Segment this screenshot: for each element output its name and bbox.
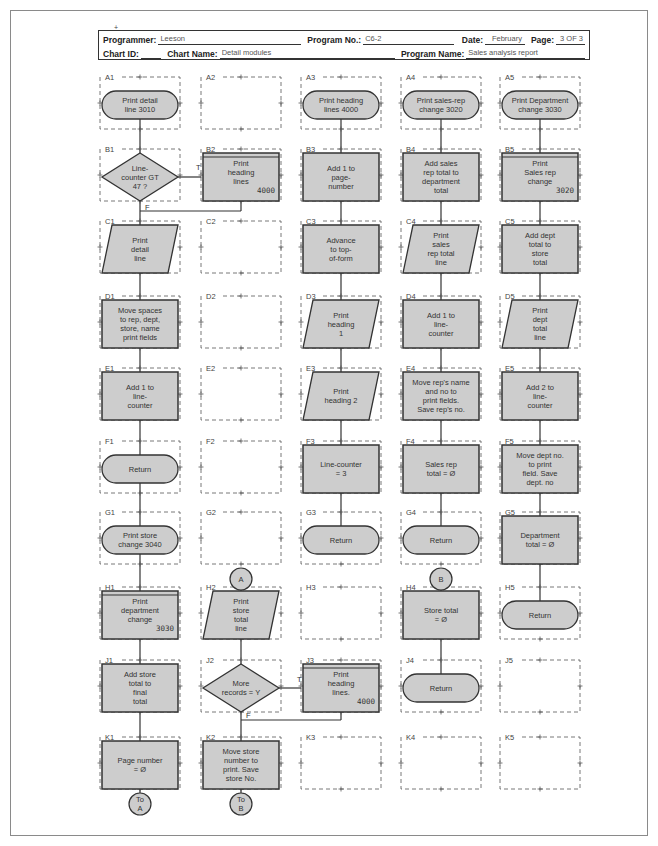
io-symbol: Printheading 2 xyxy=(303,372,379,420)
cell-c2: C2 xyxy=(199,217,284,276)
symbol-text: Print xyxy=(333,670,349,679)
cell-b2: B2Printheadinglines4000 xyxy=(199,145,284,204)
cell-c5: C5Add depttotal tostoretotal xyxy=(498,217,583,276)
cell-j5: J5 xyxy=(498,656,583,715)
symbol-text: More xyxy=(232,679,249,688)
process-symbol: Advanceto top-of-form xyxy=(303,225,379,273)
cell-k5: K5 xyxy=(498,733,583,792)
symbol-text: counter GT xyxy=(121,173,159,182)
symbol-text: store, name xyxy=(120,324,160,333)
module-number: 4000 xyxy=(357,697,376,706)
cell-g5: G5Departmenttotal = Ø xyxy=(498,508,583,567)
symbol-text: Add 1 to xyxy=(427,311,455,320)
process-symbol: Move spacesto rep, dept,store, nameprint… xyxy=(102,300,178,348)
io-symbol: Printdepttotalline xyxy=(502,300,578,348)
symbol-text: rep total to xyxy=(423,168,458,177)
symbol-text: = Ø xyxy=(435,615,447,624)
io-symbol: Printdetailline xyxy=(102,225,178,273)
symbol-text: Sales rep xyxy=(425,460,457,469)
symbol-text: Add sales xyxy=(425,159,458,168)
symbol-text: total xyxy=(533,324,548,333)
terminal-symbol: Return xyxy=(403,526,479,554)
symbol-text: rep total xyxy=(427,249,454,258)
process-symbol: Add 1 toline-counter xyxy=(102,372,178,420)
cell-label: H5 xyxy=(505,583,515,592)
decision-symbol: Line-counter GT47 ? xyxy=(102,153,178,201)
process-symbol: Store total= Ø xyxy=(403,591,479,639)
process-symbol: Move storenumber toprint. Savestore No. xyxy=(203,741,279,789)
cell-label: A2 xyxy=(206,73,215,82)
module-number: 3020 xyxy=(556,186,575,195)
symbol-text: final xyxy=(133,688,147,697)
symbol-text: heading xyxy=(328,320,355,329)
symbol-text: counter xyxy=(428,329,454,338)
module-number: 4000 xyxy=(257,186,276,195)
symbol-text: of-form xyxy=(329,254,353,263)
symbol-text: Print detail xyxy=(122,96,158,105)
cell-label: A4 xyxy=(406,73,415,82)
symbol-text: Advance xyxy=(326,236,355,245)
symbol-text: Print Department xyxy=(512,96,570,105)
symbol-text: heading 2 xyxy=(325,396,358,405)
symbol-text: line- xyxy=(434,320,449,329)
cell-g2: G2 xyxy=(199,508,284,567)
connector-a: A xyxy=(230,568,252,590)
branch-false-label: F xyxy=(246,711,251,720)
symbol-text: heading xyxy=(328,679,355,688)
cell-label: A1 xyxy=(105,73,114,82)
cell-b4: B4Add salesrep total todepartmenttotal xyxy=(399,145,484,204)
symbol-text: total xyxy=(133,697,148,706)
symbol-text: number xyxy=(328,182,354,191)
symbol-text: Print xyxy=(532,159,548,168)
symbol-text: total = Ø xyxy=(526,540,555,549)
process-symbol: Page number= Ø xyxy=(102,741,178,789)
symbol-text: Move dept no. xyxy=(516,451,564,460)
cell-c3: C3Advanceto top-of-form xyxy=(299,217,384,276)
symbol-text: Return xyxy=(330,536,353,545)
symbol-text: line xyxy=(235,624,247,633)
symbol-text: Print xyxy=(132,597,148,606)
symbol-text: total xyxy=(533,258,548,267)
cell-d2: D2 xyxy=(199,292,284,351)
symbol-text: Print xyxy=(233,597,249,606)
cell-k3: K3 xyxy=(299,733,384,792)
terminal-symbol: Print detailline 3010 xyxy=(102,91,178,119)
symbol-text: total xyxy=(234,615,249,624)
cell-label: A3 xyxy=(306,73,315,82)
symbol-text: Print heading xyxy=(319,96,363,105)
symbol-text: Add store xyxy=(124,670,156,679)
symbol-text: change 3030 xyxy=(518,105,561,114)
symbol-text: heading xyxy=(228,168,255,177)
process-symbol: Move rep's nameand no toprint fields.Sav… xyxy=(403,372,479,420)
process-symbol: Add salesrep total todepartmenttotal xyxy=(403,153,479,201)
cell-a2: A2 xyxy=(199,73,284,132)
process-symbol: Add 1 topage-number xyxy=(303,153,379,201)
symbol-text: Add 1 to xyxy=(126,383,154,392)
cell-label: J2 xyxy=(206,656,214,665)
symbol-text: Print xyxy=(532,306,548,315)
symbol-text: counter xyxy=(127,401,153,410)
symbol-text: dept xyxy=(533,315,549,324)
cell-label: E2 xyxy=(206,364,215,373)
symbol-text: to rep, dept, xyxy=(120,315,160,324)
symbol-text: = Ø xyxy=(134,765,146,774)
terminal-symbol: Print storechange 3040 xyxy=(102,526,178,554)
connector-to-b: ToB xyxy=(230,793,252,815)
symbol-text: Move store xyxy=(222,747,259,756)
symbol-text: line xyxy=(134,254,146,263)
symbol-text: change xyxy=(528,177,553,186)
symbol-text: 1 xyxy=(339,329,343,338)
symbol-text: change 3020 xyxy=(419,105,462,114)
io-symbol: Printsalesrep totalline xyxy=(403,225,479,273)
decision-symbol: Morerecords = Y xyxy=(203,664,279,712)
symbol-text: print fields. xyxy=(423,396,459,405)
cell-d4: D4Add 1 toline-counter xyxy=(399,292,484,351)
cell-j3: J3Printheadinglines.4000 xyxy=(299,656,384,715)
connector-label: To xyxy=(237,795,245,804)
cell-h1: H1Printdepartmentchange3030 xyxy=(98,583,183,642)
connector-label: B xyxy=(438,575,443,584)
cell-f3: F3Line-counter= 3 xyxy=(299,437,384,496)
terminal-symbol: Return xyxy=(403,674,479,702)
cell-b5: B5PrintSales repchange3020 xyxy=(498,145,583,204)
symbol-text: store xyxy=(233,606,250,615)
